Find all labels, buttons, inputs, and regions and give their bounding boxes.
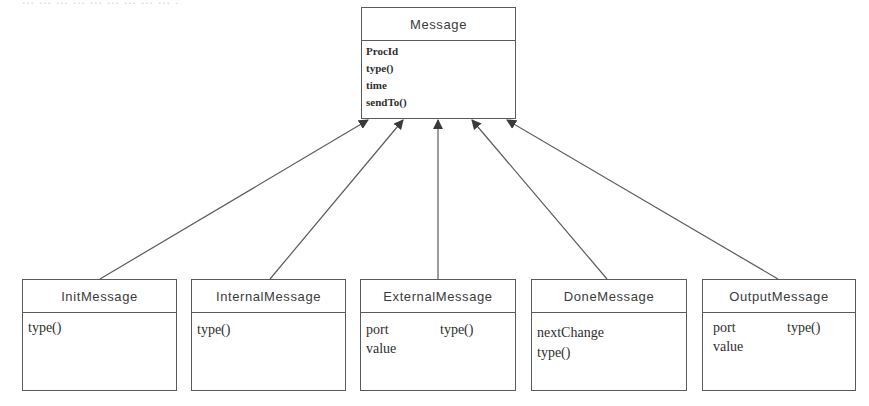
member-port: port bbox=[366, 323, 389, 337]
connector-init-to-message bbox=[100, 120, 368, 279]
class-box-externalmessage[interactable]: ExternalMessage port type() value bbox=[360, 279, 516, 391]
class-box-internalmessage[interactable]: InternalMessage type() bbox=[191, 279, 346, 391]
member-type: type() bbox=[197, 323, 230, 337]
class-box-outputmessage[interactable]: OutputMessage port type() value bbox=[702, 279, 856, 391]
class-box-message[interactable]: Message ProcId type() time sendTo() bbox=[361, 7, 516, 119]
member-type: type() bbox=[787, 321, 820, 335]
class-name-externalmessage: ExternalMessage bbox=[361, 280, 515, 313]
connector-output-to-message bbox=[507, 120, 778, 279]
class-members-externalmessage: port type() value bbox=[361, 313, 515, 390]
connector-done-to-message bbox=[472, 120, 607, 279]
connector-internal-to-message bbox=[270, 120, 403, 279]
member-type: type() bbox=[366, 63, 394, 74]
class-members-outputmessage: port type() value bbox=[703, 313, 855, 390]
class-name-initmessage: InitMessage bbox=[23, 280, 176, 313]
member-value: value bbox=[713, 340, 743, 354]
class-box-donemessage[interactable]: DoneMessage nextChange type() bbox=[531, 279, 687, 391]
member-type: type() bbox=[28, 321, 61, 335]
member-nextchange: nextChange bbox=[537, 326, 604, 340]
member-time: time bbox=[366, 80, 387, 91]
class-name-message: Message bbox=[362, 8, 515, 41]
class-name-internalmessage: InternalMessage bbox=[192, 280, 345, 313]
class-members-internalmessage: type() bbox=[192, 313, 345, 390]
class-members-donemessage: nextChange type() bbox=[532, 313, 686, 390]
class-box-initmessage[interactable]: InitMessage type() bbox=[22, 279, 177, 391]
class-members-initmessage: type() bbox=[23, 313, 176, 390]
member-sendto: sendTo() bbox=[366, 97, 407, 108]
member-type: type() bbox=[440, 323, 473, 337]
class-members-message: ProcId type() time sendTo() bbox=[362, 41, 515, 118]
class-name-donemessage: DoneMessage bbox=[532, 280, 686, 313]
member-procid: ProcId bbox=[366, 46, 398, 57]
member-type: type() bbox=[537, 346, 570, 360]
class-name-outputmessage: OutputMessage bbox=[703, 280, 855, 313]
member-value: value bbox=[366, 342, 396, 356]
member-port: port bbox=[713, 321, 736, 335]
